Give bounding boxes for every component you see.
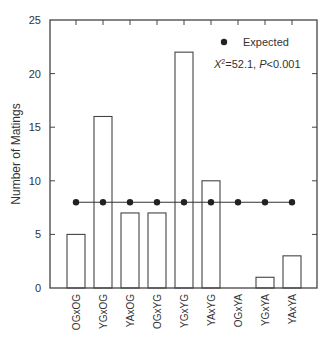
y-tick-label: 15 <box>29 121 41 133</box>
bar-YGxYG <box>175 52 193 288</box>
expected-marker-YAxYG <box>208 199 214 205</box>
bar-YGxYA <box>256 277 274 288</box>
x-tick-label-YGxYA: YGxYA <box>260 294 271 326</box>
x-tick-label-OGxYA: OGxYA <box>233 294 244 327</box>
chi-value: =52.1, <box>225 58 259 70</box>
expected-marker-YGxOG <box>100 199 106 205</box>
expected-marker-YGxYA <box>262 199 268 205</box>
bar-YAxOG <box>121 213 139 288</box>
expected-marker-YGxYG <box>181 199 187 205</box>
expected-marker-YAxOG <box>127 199 133 205</box>
expected-marker-OGxYG <box>154 199 160 205</box>
bars-group <box>67 52 301 288</box>
bar-YAxYA <box>283 256 301 288</box>
y-tick-labels: 0510152025 <box>29 14 41 294</box>
x-tick-label-YGxYG: YGxYG <box>179 294 190 328</box>
y-axis-label: Number of Matings <box>9 103 23 204</box>
x-tick-label-YGxOG: YGxOG <box>98 294 109 329</box>
x-tick-label-YAxYG: YAxYG <box>206 294 217 326</box>
x-tick-label-YAxYA: YAxYA <box>287 294 298 325</box>
p-value: <0.001 <box>267 58 301 70</box>
x-tick-label-OGxYG: OGxYG <box>152 294 163 329</box>
expected-marker-YAxYA <box>289 199 295 205</box>
x-tick-labels: OGxOGYGxOGYAxOGOGxYGYGxYGYAxYGOGxYAYGxYA… <box>71 294 298 330</box>
bar-chart: 0510152025 OGxOGYGxOGYAxOGOGxYGYGxYGYAxY… <box>0 0 331 337</box>
expected-marker-OGxYA <box>235 199 241 205</box>
bar-YAxYG <box>202 181 220 288</box>
expected-marker-OGxOG <box>73 199 79 205</box>
x-tick-label-OGxOG: OGxOG <box>71 294 82 330</box>
bar-OGxYG <box>148 213 166 288</box>
legend-label-expected: Expected <box>243 36 289 48</box>
y-tick-label: 5 <box>35 228 41 240</box>
y-tick-label: 0 <box>35 282 41 294</box>
x-tick-label-YAxOG: YAxOG <box>125 294 136 327</box>
y-tick-label: 20 <box>29 68 41 80</box>
y-tick-label: 10 <box>29 175 41 187</box>
legend-marker-icon <box>221 39 227 45</box>
y-tick-label: 25 <box>29 14 41 26</box>
chi-square-annotation: X2=52.1, P<0.001 <box>213 58 301 70</box>
bar-OGxOG <box>67 234 85 288</box>
